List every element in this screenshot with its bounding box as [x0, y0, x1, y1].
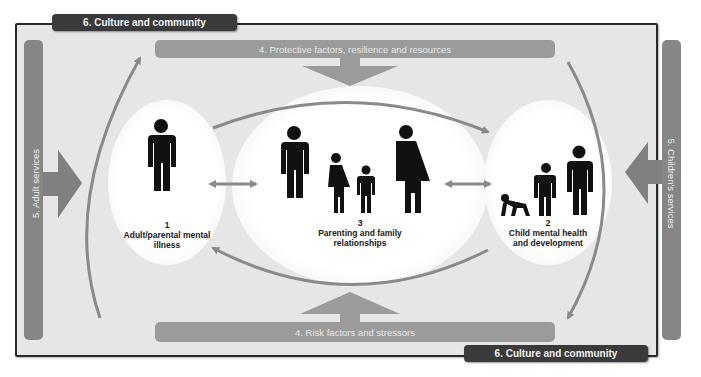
crawling-baby-icon [501, 194, 530, 216]
node-3-title-line1: Parenting and family [280, 228, 440, 238]
top-curve-arrow [213, 102, 488, 132]
node-1-title-line1: Adult/parental mental [108, 230, 226, 240]
node-2-title-line2: and development [484, 238, 612, 248]
girl-icon [328, 153, 350, 213]
children-services-label: 5. Children's services [666, 134, 677, 234]
node-1-title-line2: illness [108, 240, 226, 250]
node-2-number: 2 [484, 218, 612, 228]
outer-left-curve-arrow [87, 58, 140, 318]
node-3-label: 3 Parenting and family relationships [280, 218, 440, 248]
protective-down-arrow [302, 58, 398, 86]
adult-services-label: 5. Adult services [30, 144, 41, 224]
node-3-number: 3 [280, 218, 440, 228]
node-2-label: 2 Child mental health and development [484, 218, 612, 248]
bottom-curve-arrow [213, 248, 488, 285]
node-2-title-line1: Child mental health [484, 228, 612, 238]
node-1-label: 1 Adult/parental mental illness [108, 220, 226, 250]
culture-community-bottom-label: 6. Culture and community [464, 345, 648, 362]
risk-up-arrow [300, 292, 400, 322]
children-services-arrow [625, 142, 662, 204]
woman-icon [396, 125, 430, 213]
adult-services-arrow [42, 150, 82, 218]
child-icon [534, 163, 556, 216]
risk-factors-bar: 4. Risk factors and stressors [155, 322, 555, 342]
teen-icon [567, 146, 593, 216]
adult-man-icon [148, 119, 176, 191]
protective-factors-bar: 4. Protective factors, resilience and re… [155, 40, 555, 58]
culture-community-top-label: 6. Culture and community [52, 14, 237, 31]
man-icon [281, 126, 309, 198]
node-1-number: 1 [108, 220, 226, 230]
boy-icon [357, 166, 375, 214]
node-3-title-line2: relationships [280, 238, 440, 248]
